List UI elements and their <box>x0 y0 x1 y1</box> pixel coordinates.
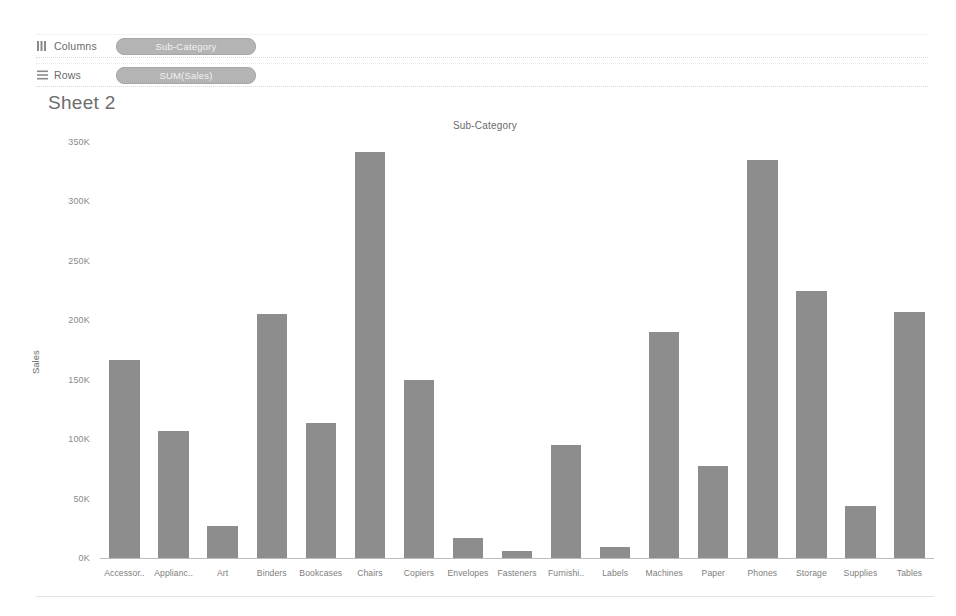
bar-slot <box>542 142 591 558</box>
x-axis-tick[interactable]: Machines <box>640 561 689 585</box>
y-axis-tick: 0K <box>79 553 90 563</box>
bar-slot <box>836 142 885 558</box>
bar-slot <box>247 142 296 558</box>
x-axis-tick[interactable]: Furnishi.. <box>542 561 591 585</box>
x-axis-tick[interactable]: Envelopes <box>443 561 492 585</box>
x-axis-tick[interactable]: Paper <box>689 561 738 585</box>
bar-slot <box>787 142 836 558</box>
columns-icon <box>36 41 48 52</box>
bar-slot <box>591 142 640 558</box>
y-axis-tick: 50K <box>73 494 90 504</box>
rows-shelf-label: Rows <box>54 69 116 81</box>
bar-slot <box>198 142 247 558</box>
x-axis-tick[interactable]: Binders <box>247 561 296 585</box>
y-axis-tick: 350K <box>68 137 90 147</box>
x-axis-tick[interactable]: Supplies <box>836 561 885 585</box>
bar-slot <box>689 142 738 558</box>
x-axis-tick[interactable]: Fasteners <box>493 561 542 585</box>
bar-slot <box>345 142 394 558</box>
x-axis-tick[interactable]: Applianc.. <box>149 561 198 585</box>
bar[interactable] <box>404 380 434 558</box>
x-axis-line <box>100 558 934 559</box>
bar[interactable] <box>698 466 728 558</box>
bar[interactable] <box>502 551 532 558</box>
chart-container: Sub-Category Sales 0K50K100K150K200K250K… <box>36 116 934 594</box>
y-axis-title: Sales <box>30 350 41 374</box>
bar-slot <box>640 142 689 558</box>
x-axis-tick[interactable]: Art <box>198 561 247 585</box>
x-axis-tick[interactable]: Copiers <box>394 561 443 585</box>
y-axis-tick: 250K <box>68 256 90 266</box>
bar[interactable] <box>747 160 777 558</box>
y-axis-tick: 100K <box>68 434 90 444</box>
bar[interactable] <box>796 291 826 558</box>
plot-area <box>100 142 934 558</box>
bar-slot <box>738 142 787 558</box>
chart-header-title: Sub-Category <box>36 120 934 131</box>
bar[interactable] <box>453 538 483 558</box>
pill-sum-sales[interactable]: SUM(Sales) <box>116 67 256 84</box>
bottom-divider <box>36 596 934 597</box>
bar[interactable] <box>207 526 237 558</box>
bar-slot <box>443 142 492 558</box>
columns-shelf-label: Columns <box>54 40 116 52</box>
bar[interactable] <box>257 314 287 558</box>
bar-slot <box>296 142 345 558</box>
bar[interactable] <box>109 360 139 558</box>
bar[interactable] <box>551 445 581 558</box>
x-axis-tick[interactable]: Accessor.. <box>100 561 149 585</box>
shelf-area: Columns Sub-Category Rows SUM(Sales) <box>36 34 928 92</box>
x-axis: Accessor..Applianc..ArtBindersBookcasesC… <box>100 561 934 585</box>
y-axis-tick: 200K <box>68 315 90 325</box>
pill-sub-category[interactable]: Sub-Category <box>116 38 256 55</box>
bar-series <box>100 142 934 558</box>
bar[interactable] <box>894 312 924 558</box>
bar[interactable] <box>158 431 188 558</box>
y-axis: Sales 0K50K100K150K200K250K300K350K <box>36 142 98 558</box>
bar[interactable] <box>600 547 630 558</box>
x-axis-tick[interactable]: Phones <box>738 561 787 585</box>
bar-slot <box>885 142 934 558</box>
x-axis-tick[interactable]: Labels <box>591 561 640 585</box>
page-title: Sheet 2 <box>48 92 116 114</box>
bar[interactable] <box>306 423 336 558</box>
rows-shelf[interactable]: Rows SUM(Sales) <box>36 63 928 87</box>
bar-slot <box>493 142 542 558</box>
bar[interactable] <box>649 332 679 558</box>
bar-slot <box>100 142 149 558</box>
columns-shelf[interactable]: Columns Sub-Category <box>36 34 928 58</box>
rows-icon <box>36 70 48 81</box>
x-axis-tick[interactable]: Tables <box>885 561 934 585</box>
bar[interactable] <box>845 506 875 558</box>
x-axis-tick[interactable]: Chairs <box>345 561 394 585</box>
x-axis-tick[interactable]: Bookcases <box>296 561 345 585</box>
y-axis-tick: 150K <box>68 375 90 385</box>
bar-slot <box>394 142 443 558</box>
x-axis-tick[interactable]: Storage <box>787 561 836 585</box>
bar[interactable] <box>355 152 385 558</box>
y-axis-tick: 300K <box>68 196 90 206</box>
bar-slot <box>149 142 198 558</box>
